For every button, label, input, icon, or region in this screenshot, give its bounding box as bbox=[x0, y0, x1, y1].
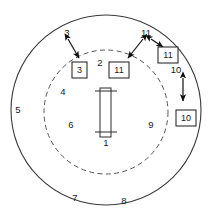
label-10: 10 bbox=[171, 64, 182, 75]
leader-11-inner bbox=[128, 39, 143, 58]
boxed-reference-numerals: 3111110 bbox=[72, 47, 196, 126]
boxed-11-outer: 11 bbox=[158, 47, 178, 63]
label-1: 1 bbox=[103, 137, 108, 148]
label-3: 3 bbox=[64, 27, 69, 38]
label-5: 5 bbox=[15, 104, 20, 115]
label-6: 6 bbox=[68, 119, 73, 130]
label-2: 2 bbox=[97, 57, 102, 68]
label-8: 8 bbox=[121, 195, 126, 206]
label-4: 4 bbox=[60, 86, 65, 97]
label-7: 7 bbox=[72, 192, 77, 203]
boxed-10: 10 bbox=[176, 110, 196, 126]
center-component bbox=[95, 88, 117, 137]
patent-figure: 1234567891011 3111110 bbox=[0, 0, 213, 224]
boxed-3-text: 3 bbox=[77, 65, 82, 75]
inner-dashed-circle bbox=[44, 50, 168, 174]
center-component-body bbox=[100, 88, 111, 137]
label-9: 9 bbox=[148, 119, 153, 130]
label-11: 11 bbox=[141, 27, 151, 38]
leader-11-outer bbox=[151, 39, 163, 47]
outer-boundary-circle bbox=[11, 15, 201, 205]
boxed-11: 11 bbox=[109, 62, 129, 78]
leader-3 bbox=[68, 39, 79, 58]
boxed-11-outer-text: 11 bbox=[163, 50, 172, 60]
boxed-10-text: 10 bbox=[181, 113, 191, 123]
boxed-11-text: 11 bbox=[114, 65, 123, 75]
boxed-3: 3 bbox=[72, 62, 87, 78]
figure-canvas: 1234567891011 3111110 bbox=[0, 0, 213, 224]
